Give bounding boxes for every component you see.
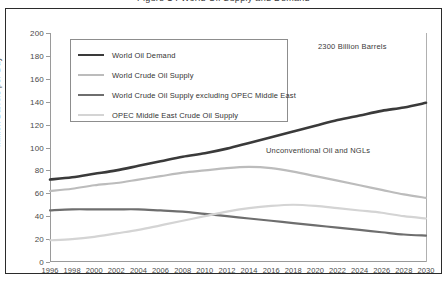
x-tick-label: 2002 xyxy=(108,266,125,275)
x-tick-label: 2010 xyxy=(196,266,213,275)
x-tick-label: 2024 xyxy=(351,266,368,275)
legend-item-label: OPEC Middle East Crude Oil Supply xyxy=(112,111,238,120)
y-tick-mark xyxy=(46,262,50,263)
x-tick-label: 2020 xyxy=(307,266,324,275)
figure-title-text: Figure 1 : World Oil Supply and Demand xyxy=(0,0,447,3)
y-tick-label: 180 xyxy=(14,51,44,60)
chart-figure: Figure 1 : World Oil Supply and Demand M… xyxy=(0,0,447,282)
legend-item-label: World Crude Oil Supply xyxy=(112,71,194,80)
x-tick-label: 2008 xyxy=(174,266,191,275)
x-tick-label: 2012 xyxy=(218,266,235,275)
plot-right-border xyxy=(426,33,427,262)
chart-legend: World Oil DemandWorld Crude Oil SupplyWo… xyxy=(70,39,288,122)
y-tick-label: 40 xyxy=(14,212,44,221)
legend-item: World Oil Demand xyxy=(78,49,176,61)
x-tick-label: 2004 xyxy=(130,266,147,275)
y-tick-label: 140 xyxy=(14,97,44,106)
legend-item: World Crude Oil Supply xyxy=(78,69,194,81)
x-tick-label: 2006 xyxy=(152,266,169,275)
legend-item-label: World Oil Demand xyxy=(112,51,176,60)
series-line xyxy=(50,209,426,235)
legend-swatch-icon xyxy=(78,54,104,57)
figure-frame: Million Barrels per Day 0204060801001201… xyxy=(5,8,442,274)
legend-item: World Crude Oil Supply excluding OPEC Mi… xyxy=(78,89,296,101)
x-tick-label: 2018 xyxy=(285,266,302,275)
legend-swatch-icon xyxy=(78,94,104,97)
x-tick-label: 2026 xyxy=(373,266,390,275)
x-tick-label: 2014 xyxy=(241,266,258,275)
x-tick-label: 2028 xyxy=(395,266,412,275)
x-tick-label: 2000 xyxy=(86,266,103,275)
x-tick-label: 1996 xyxy=(41,266,58,275)
y-tick-label: 100 xyxy=(14,143,44,152)
y-tick-label: 200 xyxy=(14,29,44,38)
x-tick-label: 2030 xyxy=(417,266,434,275)
y-axis-label: Million Barrels per Day xyxy=(0,57,2,147)
chart-annotation: 2300 Billion Barrels xyxy=(318,42,387,51)
y-tick-label: 120 xyxy=(14,120,44,129)
x-tick-label: 2016 xyxy=(263,266,280,275)
x-tick-label: 1998 xyxy=(64,266,81,275)
legend-item-label: World Crude Oil Supply excluding OPEC Mi… xyxy=(112,91,296,100)
legend-item: OPEC Middle East Crude Oil Supply xyxy=(78,109,238,121)
y-tick-label: 0 xyxy=(14,258,44,267)
y-tick-label: 60 xyxy=(14,189,44,198)
legend-swatch-icon xyxy=(78,74,104,76)
y-tick-label: 80 xyxy=(14,166,44,175)
y-tick-label: 160 xyxy=(14,74,44,83)
figure-title-clipped: Figure 1 : World Oil Supply and Demand xyxy=(0,0,447,8)
legend-swatch-icon xyxy=(78,114,104,116)
y-tick-label: 20 xyxy=(14,235,44,244)
chart-annotation: Unconventional Oil and NGLs xyxy=(266,146,370,155)
x-tick-label: 2022 xyxy=(329,266,346,275)
